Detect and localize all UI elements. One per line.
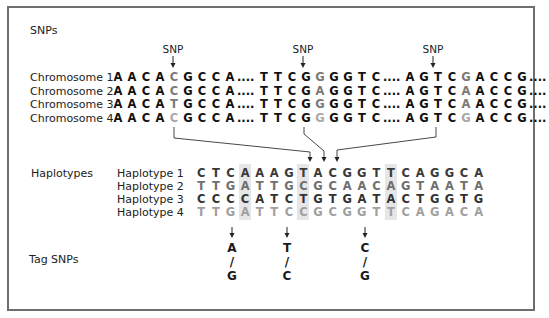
connector-arrow-icon: [174, 127, 436, 162]
tag-snp-arrow-icon: [230, 227, 368, 238]
snp-marker-arrow-icon: [171, 56, 436, 68]
